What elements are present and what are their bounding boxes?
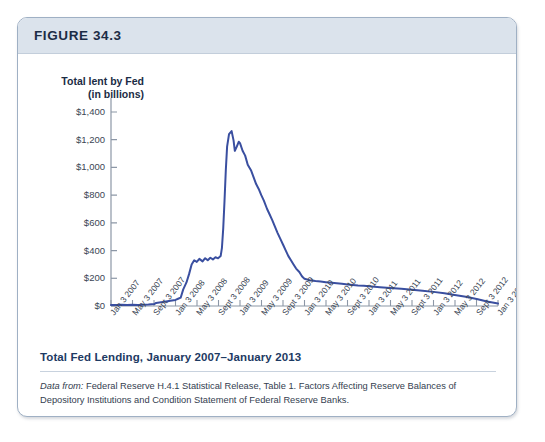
y-tick-label: $1,000: [45, 161, 105, 172]
y-tick-label: $400: [45, 245, 105, 256]
figure-caption-title: Total Fed Lending, January 2007–January …: [40, 351, 301, 363]
figure-header-band: FIGURE 34.3: [18, 18, 516, 54]
chart-plot-area: Total lent by Fed (in billions) $0$200$4…: [18, 54, 517, 344]
y-tick-label: $0: [45, 300, 105, 311]
chart-axes: [111, 98, 498, 306]
caption-divider: [40, 371, 496, 372]
figure-card: FIGURE 34.3 Total lent by Fed (in billio…: [17, 17, 517, 417]
y-tick-label: $600: [45, 217, 105, 228]
source-lead: Data from:: [40, 381, 83, 391]
figure-source-note: Data from: Federal Reserve H.4.1 Statist…: [40, 380, 490, 407]
y-tick-label: $1,400: [45, 106, 105, 117]
figure-number-label: FIGURE 34.3: [34, 28, 122, 43]
y-tick-label: $1,200: [45, 134, 105, 145]
y-tick-label: $200: [45, 272, 105, 283]
source-text: Federal Reserve H.4.1 Statistical Releas…: [40, 381, 456, 405]
y-tick-label: $800: [45, 189, 105, 200]
